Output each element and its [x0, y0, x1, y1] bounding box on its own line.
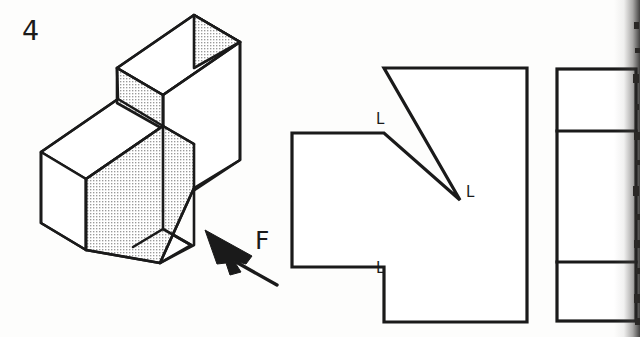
- front-view: [292, 68, 527, 322]
- problem-number: 4: [22, 17, 39, 44]
- view-direction-label-F: F: [255, 228, 269, 253]
- drawing-sheet: 4 F L L L: [0, 0, 640, 337]
- front-view-label-L-lower: L: [376, 261, 384, 276]
- orthographic-views-layer: [0, 0, 640, 337]
- front-view-label-L-apex: L: [466, 185, 474, 200]
- side-view-outline: [557, 69, 636, 321]
- right-side-view: [557, 69, 636, 321]
- front-view-label-L-upper: L: [376, 112, 384, 127]
- front-view-outline: [292, 68, 527, 322]
